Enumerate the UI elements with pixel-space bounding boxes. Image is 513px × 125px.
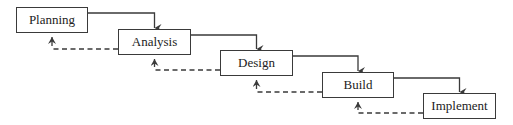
stage-label: Analysis bbox=[132, 34, 178, 50]
waterfall-diagram: Planning Analysis Design Build Implement bbox=[0, 0, 513, 125]
forward-arrow bbox=[88, 13, 155, 28]
stage-label: Design bbox=[238, 55, 275, 71]
stage-implement: Implement bbox=[423, 93, 496, 119]
forward-arrow bbox=[394, 78, 460, 92]
stage-label: Implement bbox=[431, 98, 487, 114]
stage-design: Design bbox=[220, 50, 293, 76]
stage-build: Build bbox=[322, 72, 394, 98]
stage-label: Planning bbox=[29, 12, 75, 28]
forward-arrow bbox=[293, 56, 358, 71]
stage-analysis: Analysis bbox=[118, 29, 191, 55]
stage-planning: Planning bbox=[16, 7, 88, 33]
forward-arrow bbox=[191, 35, 257, 49]
stage-label: Build bbox=[344, 77, 373, 93]
